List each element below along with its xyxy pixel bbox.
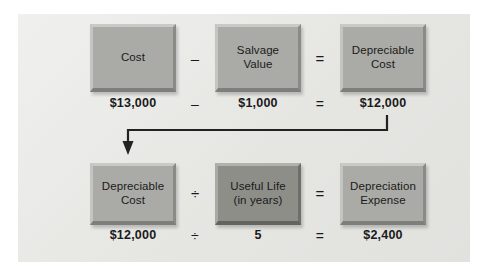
- box-salvage-value: SalvageValue: [215, 24, 301, 92]
- value-depreciable-cost: $12,000: [340, 96, 426, 110]
- box-depreciable-cost-2: DepreciableCost: [90, 163, 176, 225]
- box-depreciable-cost-label: DepreciableCost: [350, 44, 416, 71]
- depreciation-diagram: Cost – SalvageValue = DepreciableCost $1…: [0, 0, 487, 277]
- box-salvage-value-label: SalvageValue: [235, 44, 281, 71]
- operator-divide-row2: ÷: [176, 185, 214, 202]
- box-depreciation-expense: DepreciationExpense: [340, 163, 426, 225]
- box-depreciable-cost-2-label: DepreciableCost: [100, 180, 166, 207]
- operator-minus-row1: –: [176, 50, 214, 67]
- value-cost: $13,000: [90, 96, 176, 110]
- box-useful-life-label: Useful Life(in years): [228, 180, 287, 207]
- value-depreciation-expense: $2,400: [340, 228, 426, 242]
- value-operator-divide: ÷: [176, 228, 214, 244]
- operator-equals-row1: =: [301, 50, 339, 67]
- value-operator-equals: =: [301, 96, 339, 112]
- flow-arrow-path: [128, 115, 387, 146]
- value-salvage-value: $1,000: [215, 96, 301, 110]
- value-operator-equals-2: =: [301, 228, 339, 244]
- flow-arrow-head: [123, 141, 134, 155]
- value-useful-life: 5: [215, 228, 301, 242]
- box-useful-life: Useful Life(in years): [215, 163, 301, 225]
- value-operator-minus: –: [176, 96, 214, 112]
- box-cost-label: Cost: [119, 51, 147, 65]
- diagram-panel: Cost – SalvageValue = DepreciableCost $1…: [18, 14, 470, 262]
- value-depreciable-cost-2: $12,000: [90, 228, 176, 242]
- operator-equals-row2: =: [301, 185, 339, 202]
- box-depreciation-expense-label: DepreciationExpense: [348, 180, 418, 207]
- box-cost: Cost: [90, 24, 176, 92]
- box-depreciable-cost: DepreciableCost: [340, 24, 426, 92]
